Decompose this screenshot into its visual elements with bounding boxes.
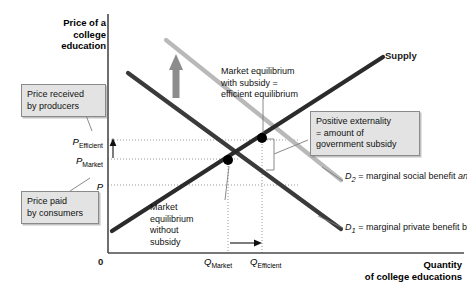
subsidy-bracket — [266, 139, 308, 170]
demand-curve-d1-label: D1 = marginal private benefit before sub… — [345, 222, 461, 236]
callout-positive-externality-line-3: government subsidy — [316, 139, 414, 151]
quantity-rise-arrow — [230, 240, 262, 247]
equilibrium-dot-without-subsidy — [223, 155, 233, 165]
leader-d1 — [318, 216, 343, 228]
annotation-eq-without-line-3: without — [150, 225, 212, 237]
y-axis-title-line-3: education — [30, 40, 106, 52]
callout-price-paid-by-consumers: Price paid by consumers — [21, 191, 99, 224]
callout-price-received-line-2: by producers — [27, 101, 100, 113]
callout-positive-externality-line-1: Positive externality — [316, 116, 414, 128]
y-axis-title-line-1: Price of a — [30, 17, 106, 29]
price-tick-efficient: PEfficient — [37, 136, 103, 150]
origin-label: 0 — [98, 256, 103, 267]
x-axis-title-line-1: Quantity — [338, 259, 462, 271]
annotation-eq-without-line-1: Market — [150, 202, 212, 214]
annotation-eq-subsidy-line-2: with subsidy = — [221, 78, 325, 90]
quantity-tick-efficient: QEfficient — [250, 256, 281, 270]
callout-positive-externality-line-2: = amount of — [316, 128, 414, 140]
callout-positive-externality: Positive externality = amount of governm… — [310, 111, 420, 156]
callout-price-paid-line-1: Price paid — [27, 196, 93, 208]
quantity-tick-market: QMarket — [204, 256, 232, 270]
quantity-tick-market-subscript: Market — [211, 262, 232, 269]
price-tick-market: PMarket — [37, 155, 103, 169]
d1-text-a: = marginal private benefit before subsid… — [356, 222, 467, 232]
supply-curve-label: Supply — [385, 50, 417, 61]
callout-price-paid-line-2: by consumers — [27, 208, 93, 220]
callout-price-received-line-1: Price received — [27, 89, 100, 101]
annotation-market-equilibrium-with-subsidy: Market equilibrium with subsidy = effici… — [221, 66, 325, 101]
price-tick-market-subscript: Market — [82, 161, 103, 168]
demand-curve-d2-label: D2 = marginal social benefit and margina… — [345, 171, 461, 185]
y-axis-title: Price of a college education — [30, 17, 106, 52]
callout-price-received-by-producers: Price received by producers — [21, 84, 106, 117]
leader-market-eq-without — [225, 166, 229, 200]
y-axis-title-line-2: college — [30, 29, 106, 41]
x-axis-title: Quantity of college educations — [338, 259, 462, 282]
annotation-eq-subsidy-line-1: Market equilibrium — [221, 66, 325, 78]
equilibrium-dot-with-subsidy — [257, 133, 267, 143]
price-tick-efficient-subscript: Efficient — [79, 142, 103, 149]
annotation-market-equilibrium-without-subsidy: Market equilibrium without subsidy — [150, 202, 212, 249]
x-axis-title-line-2: of college educations — [338, 271, 462, 283]
annotation-eq-subsidy-line-3: efficient equilibrium — [221, 89, 325, 101]
annotation-eq-without-line-2: equilibrium — [150, 214, 212, 226]
price-rise-arrow — [110, 138, 117, 158]
economics-diagram: Price of a college education Quantity of… — [0, 0, 467, 296]
d2-text-a: = marginal social benefit — [356, 171, 458, 181]
leader-d2 — [322, 167, 343, 181]
quantity-tick-efficient-subscript: Efficient — [257, 262, 281, 269]
d2-text-and: and — [458, 171, 467, 181]
annotation-eq-without-line-4: subsidy — [150, 237, 212, 249]
demand-shift-arrow — [169, 54, 183, 98]
